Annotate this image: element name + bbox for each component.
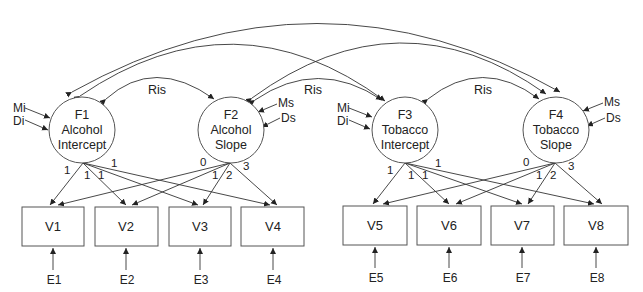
error-e8: E8 — [590, 271, 605, 285]
factor-f2-id: F2 — [224, 108, 239, 122]
error-e5: E5 — [369, 271, 384, 285]
observed-v8: V8 — [564, 206, 628, 245]
growth-model-diagram: Ris Ris Ris Mi Di Ms Ds Mi Di Ms Ds — [0, 0, 643, 292]
error-e6: E6 — [443, 271, 458, 285]
observed-v2: V2 — [95, 207, 158, 246]
factor-f2-name: Alcohol — [211, 123, 252, 137]
factor-f4: F4 Tobacco Slope — [523, 97, 589, 163]
factor-f4-type: Slope — [540, 138, 572, 152]
loading-f2-v2: 1 — [212, 169, 218, 181]
covariate-ds-f2: Ds — [281, 111, 296, 125]
observed-v4: V4 — [241, 207, 304, 246]
factor-f3-id: F3 — [398, 108, 413, 122]
observed-v5: V5 — [343, 206, 407, 245]
factor-f3-name: Tobacco — [382, 123, 429, 137]
observed-v6-label: V6 — [441, 218, 457, 233]
loading-f4-v8: 3 — [568, 160, 574, 172]
loading-f1-v1: 1 — [64, 164, 70, 176]
observed-v3-label: V3 — [192, 219, 208, 234]
loading-f1-v2: 1 — [84, 169, 90, 181]
factor-f2: F2 Alcohol Slope — [198, 97, 264, 163]
error-e1: E1 — [47, 273, 62, 287]
loading-f2-v1: 0 — [200, 156, 206, 168]
factor-f1-type: Intercept — [58, 138, 107, 152]
error-e3: E3 — [194, 273, 209, 287]
loading-f1-v4: 1 — [111, 157, 117, 169]
observed-v4-label: V4 — [265, 219, 281, 234]
factor-f4-name: Tobacco — [533, 123, 580, 137]
covariate-ds-f4: Ds — [606, 111, 621, 125]
factor-f2-type: Slope — [215, 138, 247, 152]
error-e7: E7 — [516, 271, 531, 285]
observed-v6: V6 — [417, 206, 481, 245]
observed-v8-label: V8 — [588, 218, 604, 233]
factor-f1: F1 Alcohol Intercept — [49, 97, 115, 163]
covariance-arcs: Ris Ris Ris — [72, 24, 560, 102]
observed-v1: V1 — [22, 207, 84, 246]
factor-f4-id: F4 — [549, 108, 564, 122]
observed-v7: V7 — [491, 206, 554, 245]
factor-f1-name: Alcohol — [62, 123, 103, 137]
observed-v1-label: V1 — [45, 219, 61, 234]
loading-f3-v7: 1 — [422, 169, 428, 181]
ris-label-f3-f4: Ris — [474, 83, 492, 97]
observed-variables: V1 V2 V3 V4 V5 V6 V7 V8 — [22, 206, 628, 246]
covariance-f1-f4 — [72, 24, 560, 93]
loading-f3-v8: 1 — [435, 157, 441, 169]
error-e4: E4 — [267, 273, 282, 287]
covariance-f2-f4 — [252, 43, 546, 98]
covariate-di-f3: Di — [337, 114, 348, 128]
observed-v5-label: V5 — [367, 218, 383, 233]
loading-f3-v6: 1 — [408, 169, 414, 181]
loading-f3-v5: 1 — [387, 164, 393, 176]
loading-f4-v7: 2 — [550, 169, 556, 181]
error-e2: E2 — [120, 273, 135, 287]
loading-f4-v5: 0 — [523, 156, 529, 168]
factor-f3-type: Intercept — [381, 138, 430, 152]
observed-v3: V3 — [169, 207, 231, 246]
covariate-ms-f2: Ms — [278, 96, 294, 110]
loading-f2-v3: 2 — [226, 169, 232, 181]
observed-v2-label: V2 — [118, 219, 134, 234]
covariate-mi-f1: Mi — [13, 101, 26, 115]
factor-f3: F3 Tobacco Intercept — [372, 97, 438, 163]
loading-f4-v6: 1 — [536, 169, 542, 181]
observed-v7-label: V7 — [514, 218, 530, 233]
covariate-ms-f4: Ms — [604, 95, 620, 109]
covariate-di-f1: Di — [13, 114, 24, 128]
loading-f1-v3: 1 — [98, 169, 104, 181]
factor-f1-id: F1 — [75, 108, 90, 122]
loading-f2-v4: 3 — [243, 160, 249, 172]
error-terms: E1 E2 E3 E4 E5 E6 E7 E8 — [47, 247, 605, 287]
ris-label-f2-f3: Ris — [304, 83, 322, 97]
ris-label-f1-f2: Ris — [148, 83, 166, 97]
covariate-mi-f3: Mi — [337, 101, 350, 115]
